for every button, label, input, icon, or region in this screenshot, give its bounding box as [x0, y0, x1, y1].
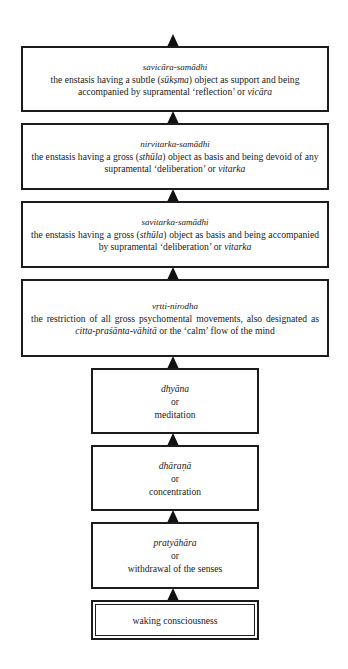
stage-term: nirvitarka-samādhi: [140, 138, 210, 150]
stage-description: the enstasis having a gross (sthūla) obj…: [31, 229, 319, 253]
stage-term: dhyāna: [161, 382, 189, 395]
stage-connector: or: [171, 395, 179, 408]
stage-description: the enstasis having a subtle (sūkṣma) ob…: [31, 74, 319, 98]
stage-connector: or: [171, 472, 179, 485]
stage-pratyahara: pratyāhāra or withdrawal of the senses: [91, 522, 259, 589]
stage-savitarka-samadhi: savitarka-samādhi the enstasis having a …: [21, 201, 329, 268]
stage-dhyana: dhyāna or meditation: [91, 368, 259, 434]
stage-inner-frame: waking consciousness: [95, 604, 255, 636]
stage-term: savitarka-samādhi: [142, 216, 209, 228]
stage-savicara-samadhi: savicāra-samādhi the enstasis having a s…: [21, 46, 329, 112]
stage-label: waking consciousness: [133, 614, 218, 627]
stage-gloss: meditation: [154, 408, 195, 421]
stage-term: savicāra-samādhi: [143, 61, 208, 73]
stage-description: the enstasis having a gross (sthūla) obj…: [31, 151, 319, 175]
stage-term: dhāraṇā: [159, 459, 192, 472]
stage-description: the restriction of all gross psychomenta…: [31, 313, 319, 337]
stage-waking-consciousness: waking consciousness: [91, 600, 259, 640]
stage-connector: or: [171, 549, 179, 562]
stage-dharana: dhāraṇā or concentration: [91, 445, 259, 511]
stage-vrtti-nirodha: vṛtti-nirodha the restriction of all gro…: [21, 279, 329, 357]
stage-nirvitarka-samadhi: nirvitarka-samādhi the enstasis having a…: [21, 123, 329, 190]
stage-term: pratyāhāra: [153, 536, 196, 549]
stage-term: vṛtti-nirodha: [152, 300, 198, 312]
stage-gloss: concentration: [149, 485, 201, 498]
stage-gloss: withdrawal of the senses: [128, 562, 223, 575]
